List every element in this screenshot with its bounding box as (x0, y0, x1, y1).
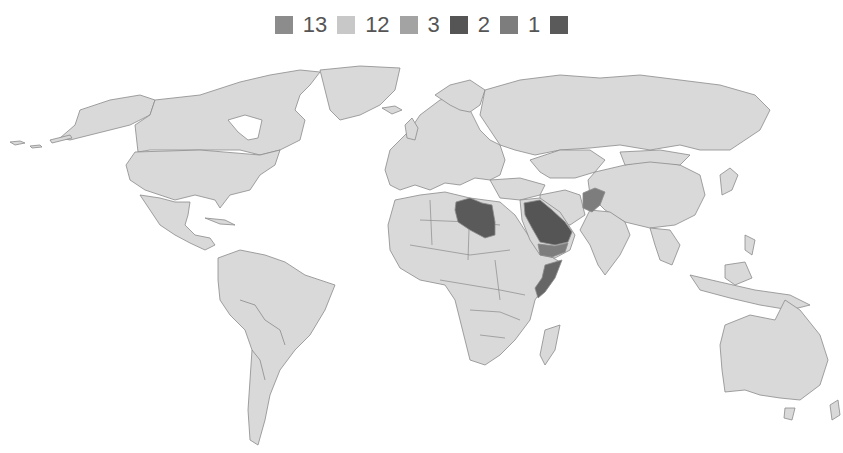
region-japan (720, 168, 738, 195)
region-mexico (140, 195, 215, 250)
aleutian-islands (10, 135, 72, 148)
region-south-america (218, 250, 335, 445)
region-turkey-middle-east (490, 178, 545, 200)
region-new-zealand (830, 400, 840, 420)
legend-swatch-4 (500, 16, 518, 34)
legend-item: 12 (327, 10, 389, 40)
legend-item: 1 (490, 10, 540, 40)
legend-item: 13 (265, 10, 327, 40)
region-mongolia (620, 150, 690, 165)
legend-label: 1 (528, 10, 540, 40)
country-afghanistan (583, 188, 605, 212)
region-southeast-asia (650, 228, 680, 265)
region-madagascar (540, 325, 560, 365)
region-iceland (382, 106, 402, 114)
legend-label: 12 (365, 10, 389, 40)
region-tasmania (784, 408, 795, 420)
world-map (0, 50, 843, 453)
legend-item: 2 (440, 10, 490, 40)
region-australia (720, 300, 828, 400)
legend-swatch-2 (400, 16, 418, 34)
legend-item: 3 (390, 10, 440, 40)
legend-label: 3 (428, 10, 440, 40)
legend-swatch-5 (550, 16, 568, 34)
legend-label: 2 (478, 10, 490, 40)
map-legend: 13 12 3 2 1 (0, 10, 843, 40)
region-borneo (725, 262, 752, 285)
legend-swatch-3 (450, 16, 468, 34)
region-philippines (745, 235, 755, 255)
legend-swatch-0 (275, 16, 293, 34)
region-canada (135, 70, 320, 155)
region-russia (480, 75, 770, 155)
legend-label: 13 (303, 10, 327, 40)
region-cuba (205, 218, 235, 225)
legend-item (540, 16, 578, 34)
legend-swatch-1 (337, 16, 355, 34)
